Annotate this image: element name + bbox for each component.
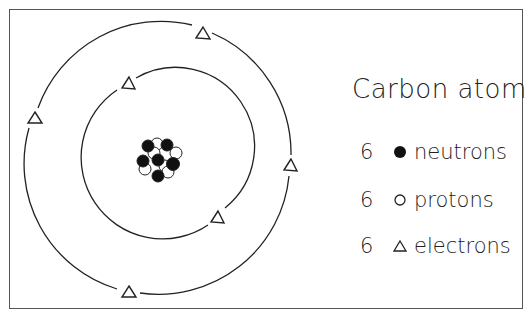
inner-orbit	[81, 67, 254, 239]
neutron-icon	[167, 158, 180, 171]
legend-title: Carbon atom	[352, 74, 527, 104]
electron-triangle-icon	[196, 27, 210, 39]
neutron-icon	[142, 140, 154, 152]
legend-row-neutrons: 6 neutrons	[360, 140, 507, 164]
nucleus	[137, 138, 182, 182]
legend-row-protons: 6 protons	[360, 188, 494, 212]
filled-circle-icon	[386, 145, 414, 159]
electron-count: 6	[360, 234, 386, 258]
neutron-icon	[152, 154, 164, 166]
neutrons-label: neutrons	[414, 140, 507, 164]
open-circle-icon	[386, 193, 414, 207]
electron-triangle-icon	[28, 112, 42, 123]
neutron-icon	[152, 170, 164, 182]
neutron-count: 6	[360, 140, 386, 164]
neutron-icon	[137, 155, 149, 167]
electron-triangle-icon	[211, 211, 224, 223]
protons-label: protons	[414, 188, 494, 212]
electrons-label: electrons	[414, 234, 511, 258]
electron-triangle-icon	[122, 77, 135, 89]
neutron-icon	[161, 139, 173, 151]
proton-count: 6	[360, 188, 386, 212]
electron-triangle-icon	[122, 286, 136, 297]
electron-triangle-icon	[284, 159, 297, 171]
triangle-icon	[386, 239, 414, 253]
legend-row-electrons: 6 electrons	[360, 234, 511, 258]
